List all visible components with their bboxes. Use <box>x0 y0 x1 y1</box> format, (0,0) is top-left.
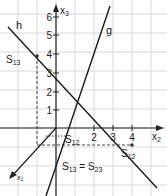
coordinate-diagram: x3 1 2 3 4 5 6 x2 2 3 4 x1 h g S13 S12 S… <box>0 0 167 196</box>
x2-axis-label: x2 <box>152 131 161 143</box>
x2-arrow-icon <box>156 125 164 131</box>
x1-axis <box>12 128 56 176</box>
point-s12-top-label: S12 <box>65 134 80 146</box>
x2-tick-2: 2 <box>91 132 97 143</box>
point-s13 <box>35 54 39 58</box>
x3-tick-4: 4 <box>46 49 52 60</box>
point-s12 <box>130 143 134 147</box>
line-h-label: h <box>16 19 22 31</box>
line-g-label: g <box>106 24 112 36</box>
point-s13-s23-label: S13 = S23 <box>62 161 102 173</box>
x3-tick-6: 6 <box>46 12 52 23</box>
x2-tick-4: 4 <box>129 132 135 143</box>
x3-arrow-icon <box>53 4 59 12</box>
x3-tick-5: 5 <box>46 30 52 41</box>
x3-axis-label: x3 <box>60 5 69 17</box>
point-s12-label: S12 <box>121 148 136 160</box>
x3-tick-2: 2 <box>46 87 52 98</box>
x3-tick-1: 1 <box>46 105 52 116</box>
x1-axis-label: x1 <box>16 174 24 182</box>
